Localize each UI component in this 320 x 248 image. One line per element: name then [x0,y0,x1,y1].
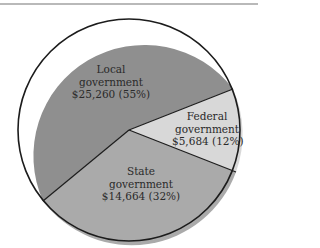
label-federal: Federal government $5,684 (12%) [172,110,242,148]
label-federal-name: Federal [172,110,242,123]
label-state-name: State [98,165,184,178]
label-state-value: $14,664 (32%) [98,190,184,203]
label-local-line2: government [68,76,154,89]
label-state: State government $14,664 (32%) [98,165,184,203]
label-local: Local government $25,260 (55%) [68,63,154,101]
label-local-value: $25,260 (55%) [68,88,154,101]
label-federal-value: $5,684 (12%) [172,135,242,148]
label-state-line2: government [98,178,184,191]
label-federal-line2: government [172,123,242,136]
label-local-name: Local [68,63,154,76]
